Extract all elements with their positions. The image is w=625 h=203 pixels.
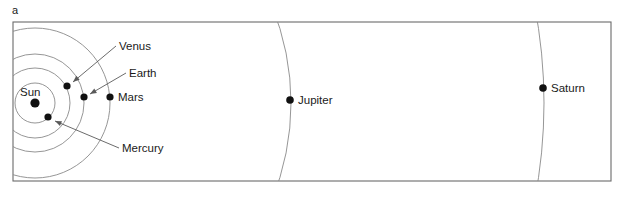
body-dot-sun (30, 98, 39, 107)
body-dot-mars (106, 93, 113, 100)
solar-system-diagram: SunMercuryVenusEarthMarsJupiterSaturn (0, 0, 625, 203)
body-dot-mercury (44, 113, 51, 120)
body-dot-earth (80, 93, 87, 100)
solar-system-figure: a SunMercuryVenusEarthMarsJupiterSaturn (0, 0, 625, 203)
body-dot-saturn (539, 84, 547, 92)
body-label-mercury: Mercury (122, 142, 164, 154)
body-label-sun: Sun (20, 86, 40, 98)
body-label-saturn: Saturn (551, 82, 585, 94)
body-dot-venus (63, 82, 70, 89)
body-label-mars: Mars (118, 91, 144, 103)
body-label-venus: Venus (119, 40, 151, 52)
body-label-jupiter: Jupiter (298, 94, 333, 106)
body-label-earth: Earth (129, 67, 157, 79)
body-dot-jupiter (286, 96, 294, 104)
